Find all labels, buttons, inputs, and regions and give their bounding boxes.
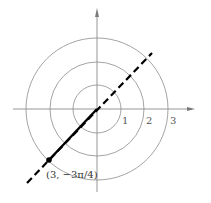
axis-arrow-right-icon xyxy=(187,107,195,111)
radius-label-3: 3 xyxy=(170,115,176,126)
radius-labels: 1 2 3 xyxy=(122,115,176,126)
radius-label-2: 2 xyxy=(146,115,152,126)
solid-radius-segment xyxy=(49,109,97,160)
polar-diagram: 1 2 3 (3, −3π/4) xyxy=(0,0,211,203)
radius-label-1: 1 xyxy=(122,115,128,126)
axis-arrow-up-icon xyxy=(95,8,99,17)
point-marker xyxy=(46,157,52,163)
point-label: (3, −3π/4) xyxy=(46,169,98,180)
vertical-axis xyxy=(95,8,99,192)
